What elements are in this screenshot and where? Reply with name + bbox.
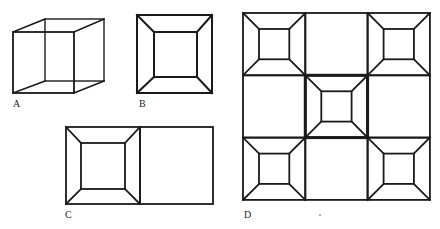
- diagonal-edge: [289, 138, 305, 154]
- cube-edge: [74, 81, 104, 93]
- stray-dot: [319, 214, 321, 216]
- inner-square: [384, 154, 414, 184]
- diagonal-edge: [305, 122, 321, 138]
- figure-c-label: C: [65, 209, 72, 220]
- figure-d-frustum-grid: [243, 13, 430, 200]
- diagonal-edge: [243, 184, 259, 200]
- diagonal-edge: [66, 127, 81, 143]
- diagonal-edge: [197, 15, 212, 32]
- empty-cell: [368, 75, 430, 137]
- diagonal-edge: [289, 59, 305, 75]
- cube-edge: [13, 81, 45, 93]
- diagonal-edge: [289, 13, 305, 29]
- front-face: [13, 32, 74, 93]
- cube-edge: [13, 19, 45, 32]
- diagonal-edge: [414, 184, 430, 200]
- diagonal-edge: [352, 122, 368, 138]
- diagonal-edge: [368, 138, 384, 154]
- diagonal-edge: [368, 59, 384, 75]
- diagonal-edge: [243, 138, 259, 154]
- diagonal-edge: [125, 127, 140, 143]
- diagonal-edge: [368, 184, 384, 200]
- figure-c-frustum-with-square: [66, 127, 213, 204]
- figure-d-label: D: [244, 209, 251, 220]
- diagonal-edge: [243, 13, 259, 29]
- diagonal-edge: [414, 13, 430, 29]
- inner-square: [259, 154, 289, 184]
- inner-square: [81, 143, 125, 189]
- cube-edge: [74, 19, 104, 32]
- diagonal-edge: [137, 15, 154, 32]
- diagonal-edge: [305, 75, 321, 91]
- empty-cell: [305, 13, 367, 75]
- diagonal-edge: [368, 13, 384, 29]
- inner-square: [384, 29, 414, 59]
- diagonal-edge: [352, 75, 368, 91]
- diagonal-edge: [414, 138, 430, 154]
- adjacent-square: [140, 127, 213, 204]
- inner-square: [259, 29, 289, 59]
- diagonal-edge: [243, 59, 259, 75]
- figure-b-frustum-square: [137, 15, 212, 93]
- empty-cell: [305, 138, 367, 200]
- diagonal-edge: [125, 189, 140, 204]
- empty-cell: [243, 75, 305, 137]
- figure-a-necker-cube: [13, 19, 104, 93]
- diagonal-edge: [197, 77, 212, 93]
- figure-b-label: B: [139, 98, 146, 109]
- optical-illusion-diagram: [0, 0, 440, 229]
- diagonal-edge: [137, 77, 154, 93]
- diagonal-edge: [289, 184, 305, 200]
- diagonal-edge: [66, 189, 81, 204]
- inner-square: [154, 32, 197, 77]
- inner-square: [321, 91, 351, 121]
- figure-a-label: A: [13, 98, 20, 109]
- diagonal-edge: [414, 59, 430, 75]
